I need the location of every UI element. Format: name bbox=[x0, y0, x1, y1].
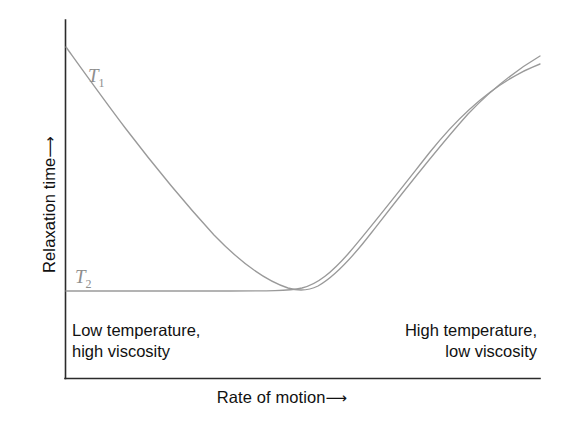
series-label-t2-sub: 2 bbox=[86, 277, 92, 291]
relaxation-time-chart: T1 T2 Low temperature, high viscosity Hi… bbox=[0, 0, 564, 425]
annotation-high-temperature: High temperature, low viscosity bbox=[405, 320, 537, 362]
x-axis-label-text: Rate of motion bbox=[217, 388, 326, 406]
curve-t1 bbox=[66, 47, 540, 290]
y-axis-label-text: Relaxation time bbox=[40, 158, 58, 273]
curve-t2 bbox=[66, 64, 540, 291]
series-label-t2: T2 bbox=[75, 266, 92, 291]
x-axis-arrow-icon: ⟶ bbox=[326, 389, 348, 407]
y-axis-label: Relaxation time⟶ bbox=[40, 55, 59, 355]
annotation-low-temperature: Low temperature, high viscosity bbox=[72, 320, 200, 362]
series-label-t1-sub: 1 bbox=[99, 76, 105, 90]
x-axis-label: Rate of motion⟶ bbox=[0, 388, 564, 407]
y-axis-arrow-icon: ⟶ bbox=[41, 136, 59, 158]
series-label-t1: T1 bbox=[88, 65, 105, 90]
